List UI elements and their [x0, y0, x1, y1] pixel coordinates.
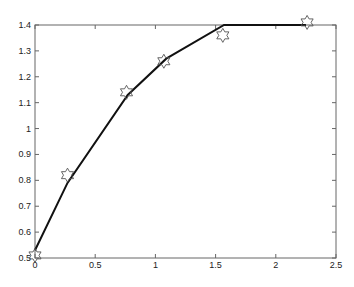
- y-tick-label: 0.6: [18, 227, 31, 237]
- y-tick-label: 1.3: [18, 46, 31, 56]
- y-tick-label: 1.2: [18, 72, 31, 82]
- x-tick-label: 2.5: [330, 260, 343, 270]
- y-axis: 0.50.60.70.80.911.11.21.31.4: [18, 20, 336, 263]
- y-tick-label: 1.4: [18, 20, 31, 30]
- x-tick-label: 2: [273, 260, 278, 270]
- hexagram-marker-icon: [217, 28, 229, 42]
- x-axis: 00.511.522.5: [32, 25, 342, 270]
- y-tick-label: 1.1: [18, 98, 31, 108]
- x-tick-label: 1.5: [209, 260, 222, 270]
- plot-area: [35, 25, 336, 258]
- fitted-line-series: [35, 25, 306, 250]
- y-tick-label: 0.9: [18, 149, 31, 159]
- data-point-markers: [29, 15, 313, 262]
- x-tick-label: 1: [153, 260, 158, 270]
- x-tick-label: 0.5: [89, 260, 102, 270]
- hexagram-marker-icon: [301, 15, 313, 29]
- y-tick-label: 1: [26, 124, 31, 134]
- line-chart: 00.511.522.5 0.50.60.70.80.911.11.21.31.…: [0, 0, 354, 287]
- y-tick-label: 0.7: [18, 201, 31, 211]
- hexagram-marker-icon: [61, 168, 73, 182]
- y-tick-label: 0.8: [18, 175, 31, 185]
